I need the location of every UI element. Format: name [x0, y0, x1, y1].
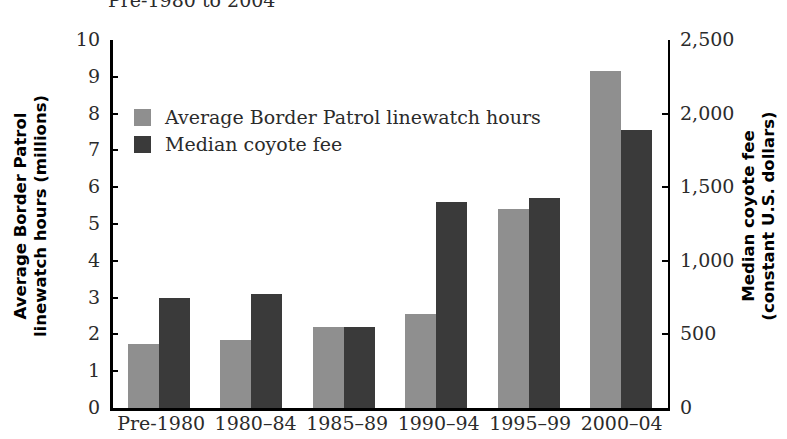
- bar-linewatch-hours: [220, 340, 251, 408]
- bar-linewatch-hours: [590, 71, 621, 408]
- left-axis-tick-label: 3: [88, 288, 100, 307]
- bar-group: [590, 40, 652, 408]
- x-axis-category-label: 1995–99: [489, 412, 571, 434]
- bar-group: [128, 40, 190, 408]
- bar-group: [498, 40, 560, 408]
- right-axis-line: [668, 40, 671, 408]
- chart-legend: Average Border Patrol linewatch hours Me…: [134, 104, 541, 158]
- left-axis-tick-label: 5: [88, 214, 100, 233]
- bars-layer: [113, 40, 668, 408]
- x-axis-category-label: 1980–84: [215, 412, 297, 434]
- left-axis-tick-label: 7: [88, 140, 100, 159]
- bar-linewatch-hours: [405, 314, 436, 408]
- right-axis-title-line1: Median coyote fee: [739, 51, 759, 381]
- right-axis-title-line2: (constant U.S. dollars): [759, 51, 779, 381]
- x-axis-category-label: Pre-1980: [117, 412, 205, 434]
- legend-item-fee: Median coyote fee: [134, 131, 541, 158]
- bar-coyote-fee: [436, 202, 467, 408]
- bar-coyote-fee: [529, 198, 560, 408]
- right-axis-tick-label: 1,000: [680, 251, 734, 270]
- legend-label-hours: Average Border Patrol linewatch hours: [165, 108, 541, 127]
- left-axis-title-line1: Average Border Patrol: [11, 51, 31, 381]
- bar-linewatch-hours: [498, 209, 529, 408]
- bar-linewatch-hours: [313, 327, 344, 408]
- left-axis-tick-label: 0: [88, 398, 100, 417]
- bar-group: [313, 40, 375, 408]
- right-axis-tick-label: 2,500: [680, 30, 734, 49]
- right-axis-title: Median coyote fee (constant U.S. dollars…: [739, 51, 779, 381]
- gray-swatch-icon: [134, 109, 151, 126]
- bar-coyote-fee: [251, 294, 282, 408]
- right-axis-tick-label: 1,500: [680, 177, 734, 196]
- bar-coyote-fee: [621, 130, 652, 408]
- x-axis-category-label: 1985–89: [306, 412, 388, 434]
- left-axis-tick-label: 4: [88, 251, 100, 270]
- dark-swatch-icon: [134, 136, 151, 153]
- left-axis-tick-label: 1: [88, 361, 100, 380]
- plot-area: 012345678910 05001,0001,5002,0002,500: [110, 40, 670, 408]
- bar-group: [220, 40, 282, 408]
- left-axis-tick-label: 6: [88, 177, 100, 196]
- x-axis-category-labels: Pre-19801980–841985–891990–941995–992000…: [113, 412, 668, 434]
- chart-page: Pre-1980 to 2004 Average Border Patrol l…: [0, 0, 787, 439]
- legend-item-hours: Average Border Patrol linewatch hours: [134, 104, 541, 131]
- left-axis-title-line2: linewatch hours (millions): [31, 51, 51, 381]
- right-axis-tick-label: 500: [680, 324, 716, 343]
- bar-group: [405, 40, 467, 408]
- left-axis-tick-label: 8: [88, 104, 100, 123]
- left-axis-tick-label: 2: [88, 324, 100, 343]
- left-axis-title: Average Border Patrol linewatch hours (m…: [11, 51, 51, 381]
- left-axis-tick-label: 10: [76, 30, 100, 49]
- bar-linewatch-hours: [128, 344, 159, 408]
- right-axis-tick-label: 2,000: [680, 104, 734, 123]
- left-axis-tick-label: 9: [88, 67, 100, 86]
- bar-coyote-fee: [344, 327, 375, 408]
- legend-label-fee: Median coyote fee: [165, 135, 342, 154]
- x-axis-baseline: [110, 408, 670, 411]
- x-axis-category-label: 2000–04: [581, 412, 663, 434]
- x-axis-category-label: 1990–94: [398, 412, 480, 434]
- chart-title: Pre-1980 to 2004: [108, 0, 275, 11]
- bar-coyote-fee: [159, 298, 190, 408]
- right-axis-tick-label: 0: [680, 398, 692, 417]
